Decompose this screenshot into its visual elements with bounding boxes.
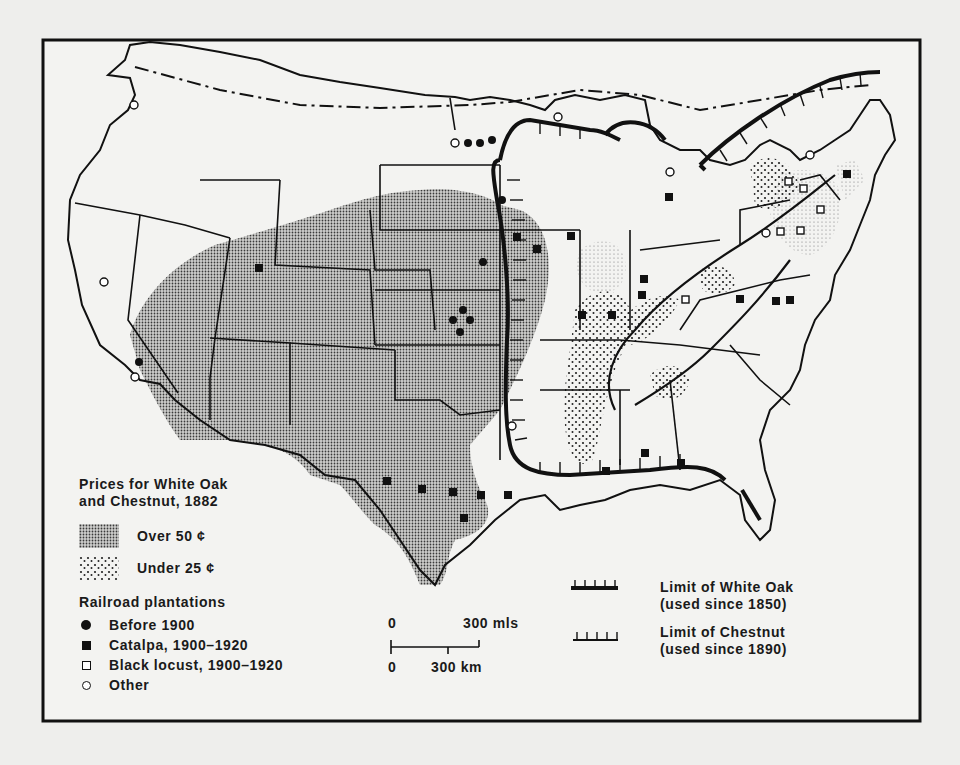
map-legend: Prices for White Oak and Chestnut, 1882 … (79, 476, 283, 695)
open-circle-icon (79, 678, 93, 692)
document-page: Prices for White Oak and Chestnut, 1882 … (0, 0, 960, 765)
legend-catalpa: Catalpa, 1900–1920 (79, 635, 283, 655)
legend-chestnut-limit: Limit of Chestnut (used since 1890) (660, 624, 794, 658)
railroad-plantations-title: Railroad plantations (79, 594, 283, 611)
coarse-stipple-swatch (79, 556, 119, 580)
filled-circle-icon (79, 618, 93, 632)
open-square-icon (79, 658, 93, 672)
scale-km-zero: 0 (388, 659, 396, 675)
legend-title: Prices for White Oak and Chestnut, 1882 (79, 476, 283, 510)
scale-miles-label: 300 mls (463, 615, 519, 631)
legend-other: Other (79, 675, 283, 695)
filled-square-icon (79, 638, 93, 652)
legend-over-50: Over 50 ¢ (79, 520, 283, 552)
scale-miles-zero: 0 (388, 615, 396, 631)
fine-stipple-swatch (79, 524, 119, 548)
scale-km-label: 300 km (431, 659, 482, 675)
legend-under-25: Under 25 ¢ (79, 552, 283, 584)
legend-white-oak-limit: Limit of White Oak (used since 1850) (660, 579, 794, 613)
legend-before-1900: Before 1900 (79, 615, 283, 635)
legend-black-locust: Black locust, 1900–1920 (79, 655, 283, 675)
limit-legend: Limit of White Oak (used since 1850) Lim… (660, 579, 794, 669)
